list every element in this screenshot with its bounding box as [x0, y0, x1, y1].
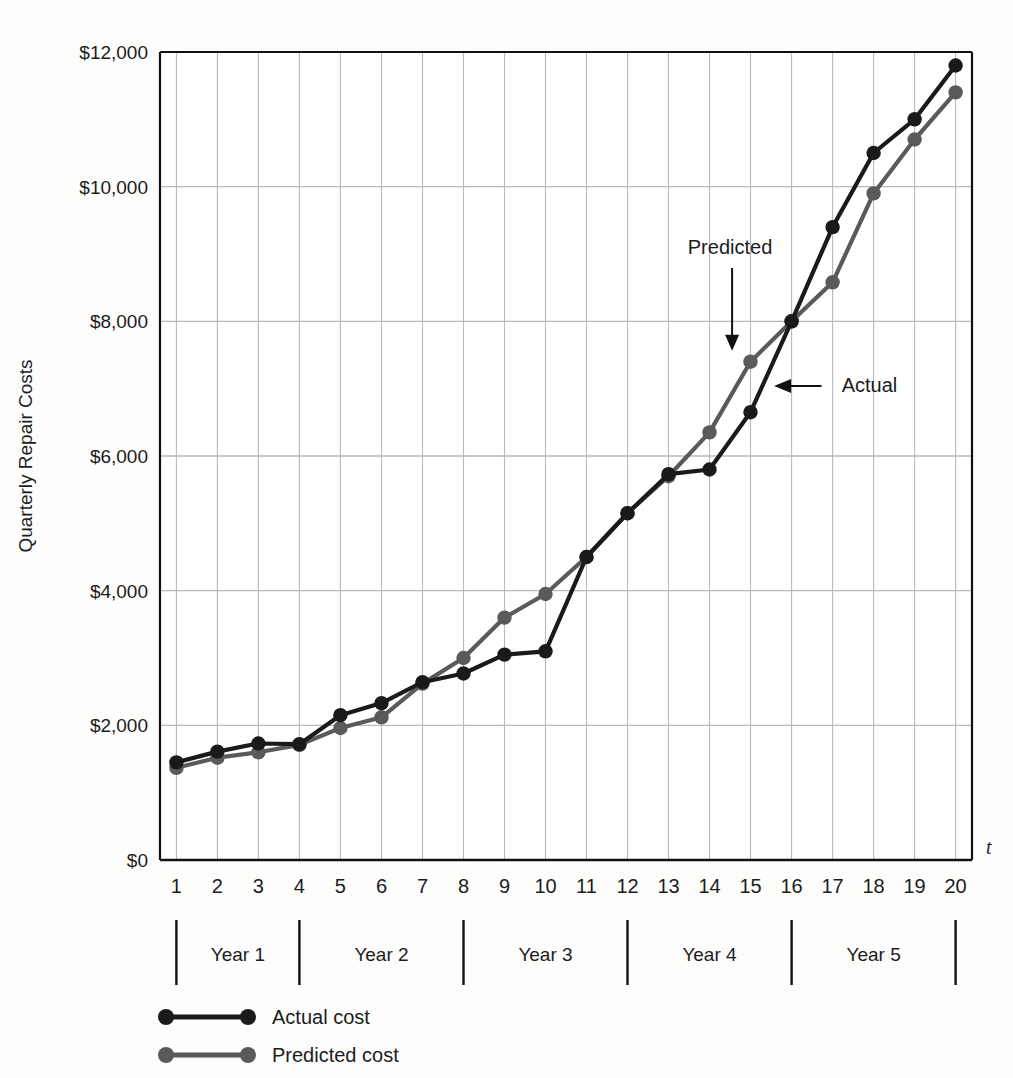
x-tick-label: 17: [821, 875, 843, 897]
legend-item: Predicted cost: [158, 1044, 399, 1066]
x-axis-tick-labels: 1234567891011121314151617181920: [171, 875, 967, 897]
y-tick-label: $2,000: [90, 715, 148, 736]
x-tick-label: 14: [698, 875, 720, 897]
legend-item: Actual cost: [158, 1006, 370, 1028]
data-point: [538, 644, 552, 658]
y-tick-label: $8,000: [90, 311, 148, 332]
year-bracket-label: Year 1: [211, 944, 265, 965]
data-point: [661, 467, 675, 481]
y-tick-label: $4,000: [90, 581, 148, 602]
chart-legend: Actual costPredicted cost: [158, 1006, 399, 1066]
chart-figure: $0$2,000$4,000$6,000$8,000$10,000$12,000…: [0, 0, 1013, 1078]
x-tick-label: 18: [862, 875, 884, 897]
data-point: [456, 666, 470, 680]
annotation-label: Predicted: [688, 236, 773, 258]
x-tick-label: 13: [657, 875, 679, 897]
legend-label: Actual cost: [272, 1006, 370, 1028]
x-tick-label: 9: [499, 875, 510, 897]
legend-marker: [158, 1047, 174, 1063]
data-point: [456, 651, 470, 665]
legend-marker: [158, 1009, 174, 1025]
legend-marker: [240, 1009, 256, 1025]
x-tick-label: 15: [739, 875, 761, 897]
data-point: [784, 314, 798, 328]
year-bracket-axis: Year 1Year 2Year 3Year 4Year 5: [176, 920, 955, 985]
data-point: [292, 737, 306, 751]
x-tick-label: 12: [616, 875, 638, 897]
data-point: [866, 146, 880, 160]
data-point: [169, 755, 183, 769]
x-tick-label: 2: [212, 875, 223, 897]
y-axis-title: Quarterly Repair Costs: [15, 359, 36, 552]
year-bracket-label: Year 5: [846, 944, 900, 965]
x-axis-title: t: [986, 836, 992, 858]
year-bracket-label: Year 2: [354, 944, 408, 965]
x-tick-label: 10: [534, 875, 556, 897]
x-tick-label: 7: [417, 875, 428, 897]
data-point: [825, 220, 839, 234]
year-bracket-label: Year 3: [518, 944, 572, 965]
data-point: [743, 355, 757, 369]
y-tick-label: $0: [127, 850, 148, 871]
data-point: [333, 721, 347, 735]
data-point: [579, 550, 593, 564]
data-point: [497, 647, 511, 661]
x-tick-label: 8: [458, 875, 469, 897]
data-point: [538, 587, 552, 601]
data-point: [374, 710, 388, 724]
y-tick-label: $6,000: [90, 446, 148, 467]
data-point: [620, 506, 634, 520]
x-tick-label: 11: [576, 875, 597, 897]
x-tick-label: 3: [253, 875, 264, 897]
data-point: [948, 85, 962, 99]
data-point: [702, 425, 716, 439]
y-tick-label: $10,000: [79, 177, 148, 198]
x-tick-label: 6: [376, 875, 387, 897]
data-point: [743, 405, 757, 419]
data-point: [210, 744, 224, 758]
x-tick-label: 20: [944, 875, 966, 897]
legend-label: Predicted cost: [272, 1044, 399, 1066]
x-tick-label: 16: [780, 875, 802, 897]
repair-costs-line-chart: $0$2,000$4,000$6,000$8,000$10,000$12,000…: [0, 0, 1013, 1078]
data-point: [497, 610, 511, 624]
data-point: [825, 275, 839, 289]
x-tick-label: 1: [171, 875, 182, 897]
data-point: [702, 462, 716, 476]
data-point: [907, 132, 921, 146]
data-point: [866, 186, 880, 200]
data-point: [251, 736, 265, 750]
legend-marker: [240, 1047, 256, 1063]
x-tick-label: 19: [903, 875, 925, 897]
data-point: [907, 112, 921, 126]
x-tick-label: 4: [294, 875, 305, 897]
data-point: [948, 58, 962, 72]
data-point: [415, 675, 429, 689]
x-tick-label: 5: [335, 875, 346, 897]
data-point: [333, 708, 347, 722]
y-axis-tick-labels: $0$2,000$4,000$6,000$8,000$10,000$12,000: [79, 42, 148, 871]
annotation-label: Actual: [842, 374, 898, 396]
data-point: [374, 696, 388, 710]
y-tick-label: $12,000: [79, 42, 148, 63]
year-bracket-label: Year 4: [682, 944, 737, 965]
